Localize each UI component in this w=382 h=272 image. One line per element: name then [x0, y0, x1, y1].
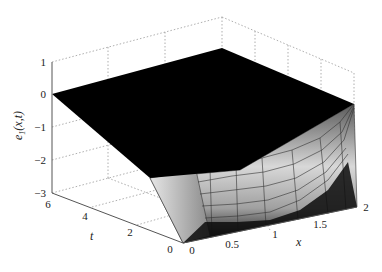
svg-text:0: 0 [167, 243, 173, 255]
svg-text:6: 6 [45, 198, 51, 210]
svg-text:e1(x,t): e1(x,t) [11, 111, 27, 140]
svg-text:0: 0 [189, 244, 195, 256]
svg-text:0.5: 0.5 [225, 238, 239, 250]
svg-text:−1: −1 [34, 121, 46, 133]
z-axis-label: e1(x,t) [11, 111, 27, 140]
z-axis-ticks: 1 0 −1 −2 −3 [34, 56, 46, 199]
svg-text:−2: −2 [34, 154, 46, 166]
surface-plot: 1 0 −1 −2 −3 6 4 2 0 0 0.5 1 1.5 2 x t e… [0, 0, 382, 272]
svg-text:4: 4 [82, 210, 88, 222]
t-axis-ticks: 6 4 2 0 [45, 198, 173, 255]
t-axis-label: t [90, 229, 94, 243]
svg-text:0: 0 [41, 88, 47, 100]
svg-text:1.5: 1.5 [313, 218, 327, 230]
svg-text:1: 1 [41, 56, 47, 68]
svg-text:2: 2 [127, 226, 133, 238]
svg-text:1: 1 [272, 228, 278, 240]
svg-text:2: 2 [363, 201, 369, 213]
x-axis-label: x [295, 235, 302, 249]
